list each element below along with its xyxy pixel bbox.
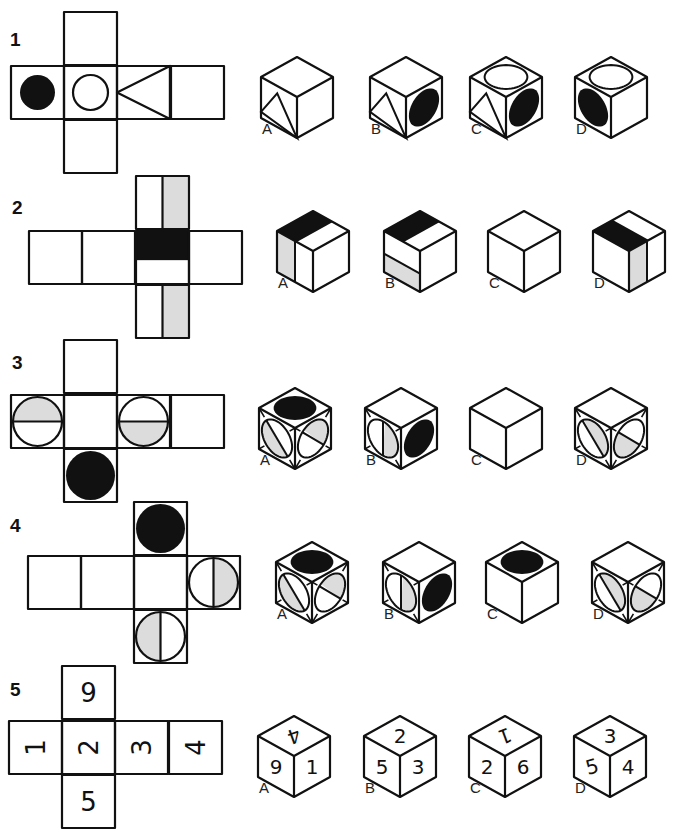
black-ellipse-icon [291,550,334,574]
option-label: C [487,605,498,622]
puzzle-number: 5 [10,679,21,701]
net-face-left [11,66,64,119]
net-face-top [64,12,117,65]
net-face-far [171,395,224,448]
face-number: 2 [481,755,494,779]
puzzle-3 [11,340,647,502]
face-number: 5 [80,787,97,817]
option-label: C [470,779,481,796]
option-label: D [576,451,587,468]
face-number: 3 [412,755,425,779]
cube-folding-puzzle-sheet: 912345491253126354 [0,0,674,835]
black-circle-icon [136,504,185,553]
puzzle-2 [29,176,665,338]
cube-net [29,176,242,338]
net-face-l2 [28,556,81,609]
net-face-l1 [81,556,134,609]
face-number: 9 [80,678,97,708]
puzzle-number: 1 [10,29,21,51]
net-face-right [117,66,170,119]
black-circle-icon [20,75,55,110]
option-label: C [471,451,482,468]
face-number: 5 [376,755,389,779]
ellipse-icon [590,65,633,89]
net-face-bottom [136,285,189,338]
puzzle-1 [11,12,647,173]
option-label: A [260,451,270,468]
option-label: C [489,274,500,291]
option-label: B [371,120,381,137]
net-face-right [189,231,242,284]
cube-net [28,502,240,663]
cube-net [11,12,224,173]
net-face-right [117,395,170,448]
black-ellipse-icon [501,550,544,574]
ellipse-icon [485,65,528,89]
face-number: 4 [622,755,635,779]
puzzle-number: 4 [10,515,21,537]
option-label: A [278,274,288,291]
net-face-top [64,340,117,393]
cube-net: 912345 [9,666,222,828]
face-number: 4 [284,723,304,750]
face-number: 6 [517,755,530,779]
net-face-center [134,556,187,609]
puzzle-5: 912345491253126354 [9,666,646,828]
face-number: 1 [21,739,51,756]
net-face-left [11,395,64,448]
net-face-center [136,231,189,284]
puzzle-4 [28,502,664,663]
black-circle-icon [66,451,115,500]
face-number: 1 [306,755,319,779]
option-label: D [593,605,604,622]
option-label: B [366,451,376,468]
net-face-right [187,556,240,609]
option-label: B [384,605,394,622]
triangle-icon [117,66,170,119]
cube-net [11,340,224,502]
option-label: B [365,779,375,796]
black-ellipse-icon [274,396,317,420]
net-face-center [64,66,117,119]
option-label: C [471,120,482,137]
face-number: 3 [604,724,617,748]
net-face-l2 [29,231,82,284]
white-circle-icon [73,75,108,110]
option-label: D [576,120,587,137]
net-face-bottom [64,449,117,502]
option-label: A [277,605,287,622]
option-label: D [594,274,605,291]
net-face-left: 1 [9,721,62,774]
black-band [136,231,189,260]
face-number: 5 [583,753,602,779]
net-face-bottom [134,610,187,663]
option-label: B [385,274,395,291]
net-face-right: 3 [115,721,168,774]
option-label: D [575,779,586,796]
net-face-top [136,176,189,229]
face-number: 1 [495,723,515,750]
puzzle-number: 2 [12,197,23,219]
net-face-center [64,395,117,448]
option-label: A [259,779,269,796]
option-label: A [262,120,272,137]
face-number: 9 [270,755,283,779]
net-face-far [171,66,224,119]
face-number: 2 [74,739,104,756]
face-number: 3 [127,739,157,756]
net-face-bottom: 5 [62,775,115,828]
puzzle-number: 3 [12,352,23,374]
net-face-bottom [64,120,117,173]
net-face-top: 9 [62,666,115,719]
face-number: 4 [181,739,211,756]
net-face-far: 4 [169,721,222,774]
net-face-center: 2 [62,721,115,774]
net-face-l1 [82,231,135,284]
face-number: 2 [394,724,407,748]
net-face-top [134,502,187,555]
